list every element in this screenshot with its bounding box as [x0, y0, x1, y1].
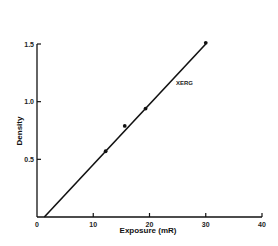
- y-tick-label: 0.5: [24, 156, 34, 163]
- data-point: [104, 149, 108, 153]
- data-point: [144, 107, 148, 111]
- x-tick-label: 40: [258, 221, 266, 228]
- x-tick-label: 30: [202, 221, 210, 228]
- x-tick-label: 10: [89, 221, 97, 228]
- axes: [37, 44, 262, 217]
- y-tick-label: 1.5: [24, 41, 34, 48]
- fit-line: [44, 44, 205, 217]
- data-point: [123, 124, 127, 128]
- x-tick-label: 0: [35, 221, 39, 228]
- y-ticks: 0.51.01.5: [24, 41, 41, 163]
- chart: 010203040 0.51.01.5 Exposure (mR) Densit…: [0, 0, 278, 246]
- plot-area: [44, 41, 207, 217]
- data-point: [204, 41, 208, 45]
- series-label-xerg: XERG: [176, 80, 193, 86]
- y-tick-label: 1.0: [24, 98, 34, 105]
- y-axis-title: Density: [15, 116, 24, 145]
- x-axis-title: Exposure (mR): [120, 226, 177, 235]
